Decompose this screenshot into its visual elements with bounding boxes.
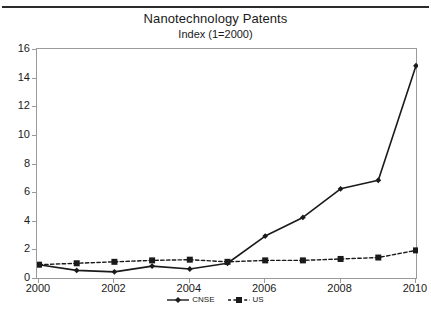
data-point-marker bbox=[375, 177, 381, 183]
x-axis-tick-label: 2002 bbox=[90, 283, 136, 294]
header-divider bbox=[2, 6, 429, 8]
data-point-marker bbox=[187, 266, 193, 272]
y-axis-tick-label: 6 bbox=[4, 186, 30, 197]
x-axis-tick-label: 2010 bbox=[392, 283, 431, 294]
y-axis-tick-label: 16 bbox=[4, 43, 30, 54]
data-point-marker bbox=[187, 257, 193, 263]
chart-title: Nanotechnology Patents bbox=[0, 11, 431, 26]
data-point-marker bbox=[111, 259, 117, 265]
data-point-marker bbox=[112, 269, 118, 275]
data-point-marker bbox=[74, 268, 80, 274]
data-point-marker bbox=[262, 257, 268, 263]
data-point-marker bbox=[149, 257, 155, 263]
series-cnse bbox=[37, 63, 418, 275]
series-us bbox=[37, 247, 418, 267]
chart-subtitle: Index (1=2000) bbox=[0, 28, 431, 40]
data-point-marker bbox=[300, 257, 306, 263]
data-point-marker bbox=[149, 263, 155, 269]
y-axis-tick-label: 4 bbox=[4, 215, 30, 226]
x-axis-tick-label: 2006 bbox=[241, 283, 287, 294]
legend-label: CNSE bbox=[192, 296, 214, 304]
chart-legend: CNSEUS bbox=[0, 295, 431, 305]
plot-area bbox=[36, 48, 417, 279]
y-axis-tick-label: 2 bbox=[4, 243, 30, 254]
data-point-marker bbox=[37, 262, 42, 268]
legend-item-cnse[interactable]: CNSE bbox=[167, 295, 214, 305]
data-point-marker bbox=[225, 259, 231, 265]
data-point-marker bbox=[338, 256, 344, 262]
x-axis-tick-label: 2004 bbox=[166, 283, 212, 294]
legend-swatch-square-icon bbox=[228, 295, 250, 305]
legend-item-us[interactable]: US bbox=[228, 295, 264, 305]
figure-nanotechnology-patents: Nanotechnology Patents Index (1=2000) 16… bbox=[0, 0, 431, 315]
legend-swatch-diamond-icon bbox=[167, 295, 189, 305]
y-axis-tick-label: 8 bbox=[4, 158, 30, 169]
data-point-marker bbox=[413, 247, 418, 253]
y-axis-tick-label: 12 bbox=[4, 100, 30, 111]
plot-canvas bbox=[37, 49, 418, 280]
y-axis-tick-label: 10 bbox=[4, 129, 30, 140]
data-point-marker bbox=[375, 255, 381, 261]
data-point-marker bbox=[74, 260, 80, 266]
data-point-marker bbox=[413, 63, 418, 69]
x-axis-tick-label: 2000 bbox=[15, 283, 61, 294]
series-line-cnse bbox=[39, 66, 416, 272]
x-axis-tick-label: 2008 bbox=[317, 283, 363, 294]
legend-label: US bbox=[253, 296, 264, 304]
y-axis-tick-label: 14 bbox=[4, 72, 30, 83]
